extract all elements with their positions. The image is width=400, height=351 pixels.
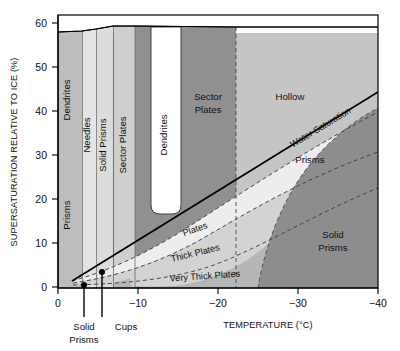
label-prisms-right: Prisms: [295, 154, 325, 165]
label-sector-plates-column: Sector Plates: [117, 116, 128, 173]
y-tick-label-10: 10: [35, 237, 47, 249]
y-tick-label-60: 60: [35, 17, 47, 29]
label-hollow: Hollow: [276, 91, 305, 102]
x-axis-title: TEMPERATURE (°C): [223, 320, 312, 330]
label-needles: Needles: [81, 117, 92, 152]
label-solid-prisms-right-line2: Prisms: [318, 242, 348, 253]
y-tick-label-20: 20: [35, 193, 47, 205]
label-solid-prisms-column: Solid Prisms: [97, 118, 108, 172]
marker-label-solid: Solid: [73, 321, 94, 332]
label-prisms-left: Prisms: [61, 200, 72, 230]
label-sector-plates-line2: Plates: [195, 104, 222, 115]
region-prisms-dendrites-column: [58, 31, 82, 288]
snow-crystal-morphology-figure: 60 50 40 30 20 10 0 SUPERSATURATION RELA…: [0, 0, 400, 351]
x-tick-label-0: 0: [55, 297, 61, 309]
marker-label-prisms: Prisms: [69, 334, 99, 345]
x-tick-label-m20: −20: [209, 297, 227, 309]
x-tick-label-m30: −30: [289, 297, 307, 309]
y-tick-label-30: 30: [35, 149, 47, 161]
label-dendrites-left: Dendrites: [61, 79, 72, 120]
region-needles-column: [83, 29, 96, 288]
chart-svg: 60 50 40 30 20 10 0 SUPERSATURATION RELA…: [0, 0, 400, 351]
label-sector-plates-line1: Sector: [194, 91, 223, 102]
y-tick-label-0: 0: [41, 281, 47, 293]
y-tick-label-50: 50: [35, 61, 47, 73]
y-tick-label-40: 40: [35, 105, 47, 117]
label-dendrites-center: Dendrites: [158, 114, 169, 155]
x-tick-label-m40: −40: [369, 297, 387, 309]
x-tick-label-m10: −10: [129, 297, 147, 309]
marker-label-cups: Cups: [115, 321, 138, 332]
label-solid-prisms-right-line1: Solid: [322, 229, 343, 240]
y-axis-title: SUPERSATURATION RELATIVE TO ICE (%): [9, 58, 19, 247]
